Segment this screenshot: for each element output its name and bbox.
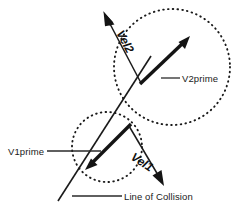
line-of-collision-axis <box>58 56 151 201</box>
upper-body-circle <box>114 9 230 125</box>
v1prime-vector-shaft <box>93 124 131 162</box>
v1prime-label: V1prime <box>8 146 44 157</box>
collision-diagram-canvas: V2prime V1prime Line of Collision Vel2 V… <box>0 0 233 217</box>
vel2-arrowhead-fill <box>104 12 115 27</box>
vel1-arrowhead <box>153 170 165 186</box>
collision-diagram: V2prime V1prime Line of Collision Vel2 V… <box>0 0 233 217</box>
v2prime-label: V2prime <box>182 73 218 84</box>
line-of-collision-label: Line of Collision <box>124 191 193 202</box>
vel1-label: Vel1 <box>128 150 156 175</box>
